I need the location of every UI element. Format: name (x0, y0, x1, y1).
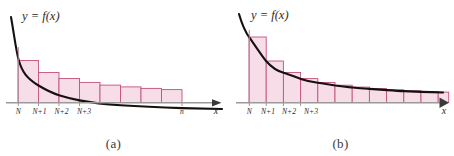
bar-rect (249, 37, 266, 103)
bar-rect (162, 90, 183, 103)
x-axis-label-a: x (213, 105, 219, 116)
tick-label-N: N (246, 107, 253, 116)
panel-caption-a: (a) (0, 136, 227, 152)
figure-panel-b: y = f(x) N N+1 N+2 N+3 x (b) (227, 0, 454, 156)
tick-label-N: N (15, 107, 22, 116)
rectangles-group-a (18, 61, 182, 103)
curve-label-a: y = f(x) (20, 9, 60, 23)
tick-label-N-plus-3: N+3 (76, 107, 91, 116)
tick-label-N-plus-3: N+3 (303, 107, 318, 116)
bar-rect (80, 82, 101, 102)
tick-label-N-plus-2: N+2 (281, 107, 296, 116)
figure-panel-a: y = f(x) N N+1 N+2 N+3 n x (a) (0, 0, 227, 156)
tick-label-N-plus-1: N+1 (32, 107, 47, 116)
bar-rect (266, 61, 283, 103)
tick-label-N-plus-1: N+1 (260, 107, 275, 116)
bar-rect (141, 88, 162, 102)
bar-rect (121, 87, 142, 103)
curve-label-b: y = f(x) (249, 8, 289, 22)
tick-label-n-end: n (180, 107, 184, 116)
figure-root: y = f(x) N N+1 N+2 N+3 n x (a) (0, 0, 454, 156)
panel-caption-b: (b) (227, 136, 454, 152)
bar-rect (100, 85, 121, 102)
x-axis-label-b: x (441, 105, 447, 116)
tick-label-N-plus-2: N+2 (54, 107, 69, 116)
